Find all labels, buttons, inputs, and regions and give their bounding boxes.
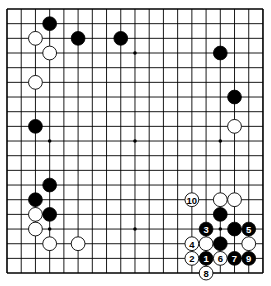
move-number-label: 3 — [203, 224, 208, 235]
white-stone[interactable] — [199, 237, 213, 251]
move-4-stone[interactable]: 4 — [185, 237, 199, 251]
move-9-stone[interactable]: 9 — [242, 251, 256, 265]
white-stone[interactable] — [228, 119, 242, 133]
black-stone[interactable] — [228, 222, 242, 236]
move-2-stone[interactable]: 2 — [185, 251, 199, 265]
white-stone[interactable] — [228, 193, 242, 207]
black-stone[interactable] — [213, 46, 227, 60]
white-stone[interactable] — [242, 237, 256, 251]
move-1-stone[interactable]: 1 — [199, 251, 213, 265]
move-10-stone[interactable]: 10 — [185, 193, 199, 207]
black-stone[interactable] — [114, 31, 128, 45]
black-stone[interactable] — [43, 178, 57, 192]
black-stone[interactable] — [43, 17, 57, 31]
move-6-stone[interactable]: 6 — [213, 251, 227, 265]
move-number-label: 5 — [246, 224, 252, 235]
move-5-stone[interactable]: 5 — [242, 222, 256, 236]
star-point — [48, 227, 52, 231]
move-number-label: 10 — [187, 195, 198, 206]
black-stone[interactable] — [43, 207, 57, 221]
black-stone[interactable] — [213, 237, 227, 251]
move-number-label: 2 — [189, 253, 194, 264]
move-number-label: 6 — [218, 253, 223, 264]
star-point — [133, 139, 137, 143]
white-stone[interactable] — [29, 75, 43, 89]
black-stone[interactable] — [29, 119, 43, 133]
star-point — [219, 227, 223, 231]
move-7-stone[interactable]: 7 — [228, 251, 242, 265]
black-stone[interactable] — [213, 207, 227, 221]
move-number-label: 7 — [232, 253, 237, 264]
move-8-stone[interactable]: 8 — [199, 266, 213, 280]
go-board[interactable]: 12345678910 — [0, 0, 271, 286]
white-stone[interactable] — [43, 237, 57, 251]
black-stone[interactable] — [29, 193, 43, 207]
move-number-label: 4 — [189, 239, 195, 250]
white-stone[interactable] — [29, 207, 43, 221]
white-stone[interactable] — [213, 193, 227, 207]
white-stone[interactable] — [29, 31, 43, 45]
white-stone[interactable] — [71, 237, 85, 251]
star-point — [48, 139, 52, 143]
black-stone[interactable] — [228, 90, 242, 104]
move-number-label: 1 — [203, 253, 209, 264]
white-stone[interactable] — [43, 46, 57, 60]
star-point — [219, 139, 223, 143]
white-stone[interactable] — [29, 222, 43, 236]
stones-layer — [29, 17, 256, 251]
move-number-label: 8 — [203, 268, 208, 279]
star-point — [133, 227, 137, 231]
move-number-label: 9 — [246, 253, 251, 264]
black-stone[interactable] — [71, 31, 85, 45]
move-3-stone[interactable]: 3 — [199, 222, 213, 236]
star-point — [133, 51, 137, 55]
